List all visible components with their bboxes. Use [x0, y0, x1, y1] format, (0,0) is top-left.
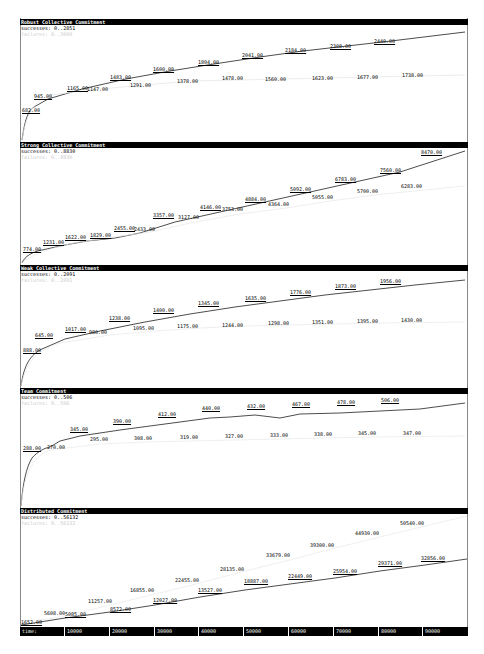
successes-value-label: 440.00 [202, 405, 220, 411]
successes-value-label: 13527.00 [198, 587, 222, 593]
successes-value-label: 5085.00 [65, 611, 86, 617]
failures-value-label: 16855.00 [130, 587, 154, 593]
successes-value-label: 2041.00 [242, 52, 263, 58]
plot-area [20, 142, 468, 265]
failures-value-label: 1291.00 [130, 82, 151, 88]
failures-value-label: 4364.00 [268, 201, 289, 207]
failures-value-label: 1378.00 [177, 78, 198, 84]
failures-value-label: 327.00 [225, 433, 243, 439]
successes-value-label: 1238.00 [109, 315, 130, 321]
time-tick: 80000 [378, 627, 396, 636]
successes-value-label: 2184.00 [285, 47, 306, 53]
successes-value-label: 412.00 [158, 411, 176, 417]
successes-value-label: 1776.00 [290, 289, 311, 295]
successes-value-label: 645.00 [35, 332, 53, 338]
failures-value-label: 22455.00 [175, 577, 199, 583]
time-tick: 60000 [288, 627, 306, 636]
successes-value-label: 1956.00 [380, 278, 401, 284]
panel-strong-collective: Strong Collective Commitment successes: … [20, 142, 468, 265]
successes-value-label: 8470.00 [421, 149, 442, 155]
failures-value-label: 1298.00 [268, 320, 289, 326]
successes-value-label: 3357.00 [153, 212, 174, 218]
successes-value-label: 1635.00 [245, 295, 266, 301]
successes-value-label: 5092.00 [290, 186, 311, 192]
failures-value-label: 50540.00 [400, 520, 424, 526]
failures-value-label: 308.00 [134, 435, 152, 441]
failures-value-label: 33679.00 [266, 552, 290, 558]
time-tick: 20000 [109, 627, 127, 636]
time-tick: 50000 [243, 627, 261, 636]
failures-line [21, 436, 465, 506]
successes-value-label: 32856.00 [421, 555, 445, 561]
successes-line [21, 403, 465, 506]
successes-value-label: 432.00 [247, 403, 265, 409]
plot-area [20, 19, 468, 142]
successes-value-label: 7560.00 [380, 167, 401, 173]
failures-value-label: 980.00 [89, 329, 107, 335]
failures-value-label: 1738.00 [402, 72, 423, 78]
successes-value-label: 1483.00 [110, 74, 131, 80]
time-tick: 30000 [154, 627, 172, 636]
successes-value-label: 2440.00 [374, 38, 395, 44]
panel-robust-collective: Robust Collective Commitment successes: … [20, 19, 468, 142]
failures-value-label: 1095.00 [133, 325, 154, 331]
failures-value-label: 1244.00 [222, 322, 243, 328]
time-tick: 90000 [422, 627, 440, 636]
successes-value-label: 25954.00 [333, 568, 357, 574]
failures-value-label: 1560.00 [265, 76, 286, 82]
failures-value-label: 1677.00 [357, 74, 378, 80]
failures-value-label: 345.00 [358, 430, 376, 436]
successes-value-label: 2455.00 [114, 225, 135, 231]
failures-value-label: 1395.00 [357, 318, 378, 324]
failures-value-label: 11257.00 [88, 598, 112, 604]
failures-value-label: 44930.00 [355, 530, 379, 536]
failures-value-label: 1623.00 [312, 75, 333, 81]
successes-value-label: 1165.00 [67, 85, 88, 91]
failures-value-label: 6283.00 [401, 183, 422, 189]
failures-line [22, 75, 465, 140]
failures-value-label: 3127.00 [178, 214, 199, 220]
failures-value-label: 1175.00 [177, 323, 198, 329]
failures-value-label: 1147.00 [87, 86, 108, 92]
failures-value-label: 319.00 [180, 434, 198, 440]
successes-value-label: 22449.00 [288, 573, 312, 579]
successes-value-label: 288.00 [23, 445, 41, 451]
failures-value-label: 333.00 [270, 432, 288, 438]
successes-value-label: 1600.00 [153, 66, 174, 72]
failures-value-label: 28135.00 [220, 566, 244, 572]
successes-value-label: 1345.00 [198, 300, 219, 306]
successes-value-label: 1622.00 [65, 234, 86, 240]
successes-value-label: 12027.00 [153, 597, 177, 603]
successes-value-label: 8572.00 [110, 606, 131, 612]
successes-value-label: 1231.00 [43, 239, 64, 245]
successes-value-label: 467.00 [292, 401, 310, 407]
successes-value-label: 2308.00 [330, 43, 351, 49]
failures-value-label: 1430.00 [401, 317, 422, 323]
successes-value-label: 888.00 [23, 347, 41, 353]
panel-distributed: Distributed Commitment successes: 0..561… [20, 508, 468, 627]
time-tick: 70000 [333, 627, 351, 636]
successes-value-label: 1829.00 [90, 232, 111, 238]
successes-value-label: 1873.00 [335, 283, 356, 289]
successes-value-label: 774.00 [23, 246, 41, 252]
successes-value-label: 682.00 [22, 107, 40, 113]
failures-line [22, 186, 465, 263]
time-tick: 40000 [198, 627, 216, 636]
successes-value-label: 29371.00 [378, 560, 402, 566]
successes-value-label: 506.00 [381, 397, 399, 403]
panel-weak-collective: Weak Collective Commitment successes: 0.… [20, 265, 468, 388]
successes-value-label: 4884.00 [245, 196, 266, 202]
failures-value-label: 5608.00 [44, 610, 65, 616]
successes-value-label: 345.00 [70, 426, 88, 432]
successes-value-label: 1017.00 [65, 326, 86, 332]
failures-value-label: 5700.00 [357, 188, 378, 194]
time-tick: 10000 [64, 627, 82, 636]
failures-value-label: 39300.00 [310, 542, 334, 548]
panel-team: Team Commitment successes: 0..506 failur… [20, 388, 468, 508]
successes-value-label: 1652.00 [21, 619, 42, 625]
plot-area [20, 388, 468, 508]
successes-value-label: 1804.00 [198, 59, 219, 65]
failures-value-label: 3753.00 [222, 206, 243, 212]
failures-value-label: 295.00 [90, 436, 108, 442]
failures-value-label: 1351.00 [312, 319, 333, 325]
